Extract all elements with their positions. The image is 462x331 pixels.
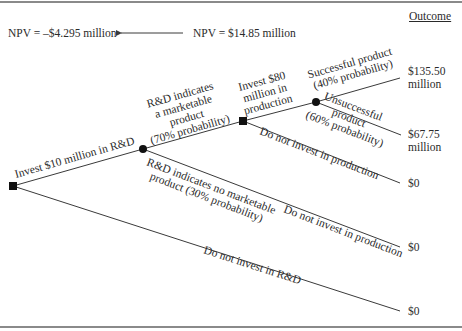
outcome-unsuccessful-value: $67.75 xyxy=(408,128,441,141)
npv-rd-label: NPV = –$4.295 million xyxy=(8,27,117,40)
outcome-no-rd: $0 xyxy=(408,305,420,318)
decision-tree: Invest $10 million in R&D Do not invest … xyxy=(0,0,462,331)
label-unsuccessful: Unsuccessful product (60% probability) xyxy=(304,86,394,150)
outcome-no-production: $0 xyxy=(408,177,420,190)
label-no-invest-production-lower: Do not invest in production xyxy=(282,203,405,261)
outcome-successful-value: $135.50 xyxy=(408,65,445,78)
label-invest-rd: Invest $10 million in R&D xyxy=(13,134,135,180)
svg-text:Do not invest in R&D: Do not invest in R&D xyxy=(202,243,302,286)
outcome-unsuccessful-unit: million xyxy=(408,141,441,154)
chance-node-market xyxy=(312,98,320,106)
label-not-marketable: R&D indicates no marketable product (30%… xyxy=(141,156,278,228)
svg-text:Invest $10 million in R&D: Invest $10 million in R&D xyxy=(13,134,135,180)
outcome-successful: $135.50 million xyxy=(408,65,445,90)
outcome-header: Outcome xyxy=(409,10,451,23)
label-successful: Successful product (40% probability) xyxy=(306,45,397,93)
outcome-no-marketable: $0 xyxy=(408,241,420,254)
svg-text:Do not invest in production: Do not invest in production xyxy=(282,203,405,261)
outcome-successful-unit: million xyxy=(408,78,445,91)
label-no-invest-rd: Do not invest in R&D xyxy=(202,243,302,286)
decision-node-production xyxy=(239,117,247,125)
label-marketable: R&D indicates a marketable product (70% … xyxy=(139,77,232,147)
outcome-unsuccessful: $67.75 million xyxy=(408,128,441,153)
npv-production-label: NPV = $14.85 million xyxy=(193,27,296,40)
decision-node-root xyxy=(9,182,17,190)
chance-node-rd xyxy=(139,145,147,153)
